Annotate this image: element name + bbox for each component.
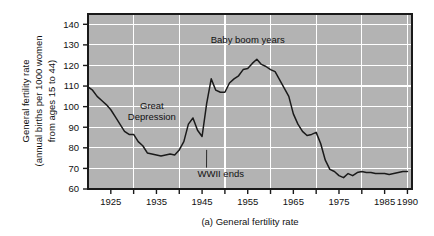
annotation-wwii-ends: WWII ends [198,168,245,179]
y-tick-label: 120 [63,60,79,71]
x-tick-label: 1945 [192,196,213,207]
x-tick-label: 1935 [146,196,167,207]
y-tick-label: 140 [63,19,79,30]
y-tick-label: 100 [63,101,79,112]
x-tick-label: 1955 [237,196,258,207]
y-tick-label: 80 [68,142,79,153]
fertility-rate-chart: 60708090100110120130140 1925193519451955… [0,0,434,236]
x-tick-label: 1990 [397,196,418,207]
x-tick-label: 1965 [283,196,304,207]
y-tick-label: 130 [63,39,79,50]
y-tick-label: 90 [68,122,79,133]
x-tick-label: 1985 [374,196,395,207]
x-tick-label: 1925 [100,196,121,207]
x-tick-label: 1975 [328,196,349,207]
annotation-great-depression-line-2: Depression [128,111,176,122]
figure-general-fertility-rate: 60708090100110120130140 1925193519451955… [0,0,434,236]
figure-caption: (a) General fertility rate [201,216,298,227]
y-tick-label: 110 [64,80,79,91]
y-axis-title-line-1: General fertility rate [20,60,31,143]
annotation-great-depression-line-1: Great [140,100,164,111]
y-tick-label: 60 [68,183,79,194]
y-axis-title-line-2: (annual births per 1000 women [33,36,44,167]
y-axis-title-line-3: from ages 15 to 44) [46,60,57,142]
annotation-baby-boom-years: Baby boom years [211,34,285,45]
y-tick-label: 70 [68,163,79,174]
